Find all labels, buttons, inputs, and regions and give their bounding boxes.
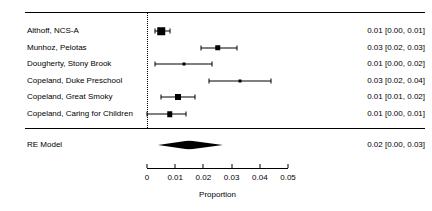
study-point-marker [175,94,181,100]
study-estimate-text: 0.01 [0.00, 0.01] [367,26,425,36]
x-axis-tick [231,164,232,168]
x-axis-tick [203,164,204,168]
study-point-marker [215,45,221,51]
confidence-interval-cap [161,95,162,100]
x-axis-tick-label: 0.05 [280,173,296,183]
summary-diamond [158,141,223,150]
separator-line-middle [25,128,425,129]
study-estimate-text: 0.01 [0.00, 0.02] [367,59,425,69]
x-axis-tick-label: 0 [145,173,149,183]
study-label: Copeland, Duke Preschool [27,76,122,86]
confidence-interval-cap [194,95,195,100]
confidence-interval-cap [155,29,156,34]
x-axis-tick-label: 0.03 [224,173,240,183]
x-axis-tick [175,164,176,168]
study-point-marker [182,63,185,66]
confidence-interval-cap [200,45,201,50]
confidence-interval-cap [211,62,212,67]
confidence-interval-cap [155,62,156,67]
study-estimate-text: 0.01 [0.00, 0.01] [367,109,425,119]
study-label: Copeland, Great Smoky [27,92,112,102]
study-label: Althoff, NCS-A [27,26,79,36]
x-axis-tick-label: 0.01 [167,173,183,183]
separator-line-top [25,12,425,13]
x-axis-tick [288,164,289,168]
summary-label: RE Model [27,140,62,150]
x-axis-tick [147,164,148,168]
study-point-marker [157,27,165,35]
confidence-interval-cap [237,45,238,50]
confidence-interval-cap [169,29,170,34]
confidence-interval-cap [209,78,210,83]
x-axis-tick-label: 0.02 [196,173,212,183]
x-axis-title: Proportion [199,190,236,200]
summary-estimate-text: 0.02 [0.00, 0.03] [367,140,425,150]
study-label: Munhoz, Pelotas [27,43,87,53]
study-point-marker [239,79,242,82]
x-axis-line [147,168,288,169]
study-label: Dougherty, Stony Brook [27,59,111,69]
x-axis-tick [259,164,260,168]
confidence-interval-cap [147,112,148,117]
study-label: Copeland, Caring for Children [27,109,133,119]
study-estimate-text: 0.03 [0.02, 0.04] [367,76,425,86]
confidence-interval-cap [271,78,272,83]
confidence-interval-cap [186,112,187,117]
study-point-marker [167,111,173,117]
x-axis-tick-label: 0.04 [252,173,268,183]
study-estimate-text: 0.03 [0.02, 0.03] [367,43,425,53]
study-estimate-text: 0.01 [0.01, 0.02] [367,92,425,102]
forest-plot: Althoff, NCS-A0.01 [0.00, 0.01]Munhoz, P… [0,0,432,211]
